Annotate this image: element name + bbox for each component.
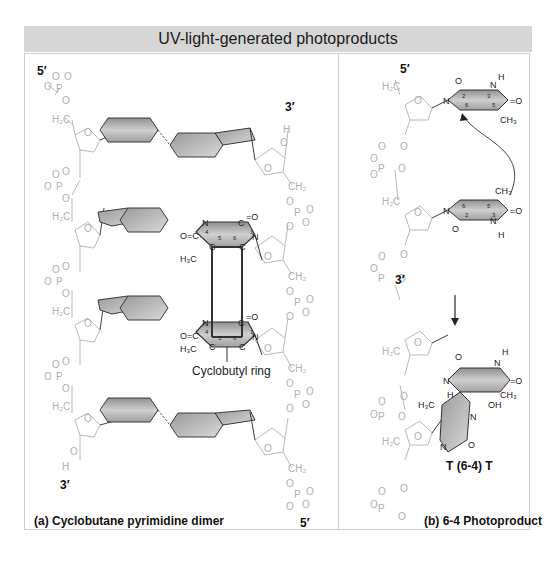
svg-text:O: O [84, 413, 92, 424]
svg-text:H₂C: H₂C [52, 211, 70, 222]
base-pair-bottom [100, 398, 255, 440]
svg-text:H₂C: H₂C [382, 436, 400, 447]
svg-text:N: N [202, 318, 209, 328]
svg-text:CH₂: CH₂ [288, 271, 306, 282]
svg-text:O: O [468, 440, 475, 450]
svg-text:O: O [286, 311, 294, 322]
svg-text:O: O [62, 261, 70, 272]
svg-text:H₂C: H₂C [382, 81, 400, 92]
svg-text:O: O [280, 137, 288, 148]
svg-text:P: P [56, 181, 63, 192]
svg-text:N: N [490, 80, 497, 90]
svg-text:C: C [209, 242, 216, 252]
svg-text:N: N [470, 412, 477, 422]
svg-text:C: C [209, 342, 216, 352]
svg-text:O: O [84, 318, 92, 329]
svg-text:C: C [239, 342, 246, 352]
svg-text:O: O [302, 307, 310, 318]
svg-text:O: O [52, 359, 60, 370]
svg-text:CH₃: CH₃ [500, 390, 517, 400]
svg-text:O: O [400, 141, 408, 152]
svg-text:C: C [239, 242, 246, 252]
svg-text:O: O [62, 356, 70, 367]
svg-text:N: N [494, 358, 501, 368]
svg-text:H₂C: H₂C [52, 401, 70, 412]
svg-text:O: O [378, 486, 386, 497]
svg-text:O: O [286, 196, 294, 207]
svg-text:O: O [370, 153, 378, 164]
svg-text:O: O [44, 181, 52, 192]
svg-text:O: O [286, 221, 294, 232]
phosphate-labels-b: H₂CO OOPOOO H₂CO OOPOO H₂CO OOPOO H₂CO O… [370, 81, 422, 522]
panel-a-caption: (a) Cyclobutane pyrimidine dimer [34, 514, 224, 528]
svg-text:P: P [294, 297, 301, 308]
svg-text:O: O [378, 396, 386, 407]
svg-text:O: O [398, 411, 406, 422]
thymine-bottom [448, 200, 508, 220]
svg-text:O: O [455, 76, 462, 86]
svg-text:O: O [264, 343, 272, 354]
svg-text:O: O [84, 223, 92, 234]
svg-text:O: O [286, 478, 294, 489]
svg-text:O: O [62, 95, 70, 106]
panel-a-left-3prime: 3′ [60, 478, 70, 492]
purine-left-2 [98, 208, 168, 232]
svg-text:H₃C: H₃C [418, 400, 435, 410]
svg-text:O: O [455, 352, 462, 362]
diagram-canvas: OOPOO H₂CO OOPOO H₂CO OOPOO H₂CO OOPOO H… [0, 0, 559, 564]
svg-text:H: H [283, 124, 290, 135]
svg-text:O: O [286, 286, 294, 297]
reaction-arrowhead [451, 318, 459, 326]
svg-text:O: O [52, 71, 60, 82]
panel-a-diagram [48, 85, 292, 468]
svg-text:P: P [378, 273, 385, 284]
svg-text:O: O [398, 163, 406, 174]
svg-text:P: P [378, 411, 385, 422]
svg-text:H₂C: H₂C [382, 346, 400, 357]
svg-text:CH₂: CH₂ [288, 363, 306, 374]
svg-text:H₂C: H₂C [382, 196, 400, 207]
svg-text:H: H [62, 461, 69, 472]
svg-text:C: C [238, 318, 245, 328]
svg-text:O: O [306, 386, 314, 397]
svg-text:O: O [264, 443, 272, 454]
svg-text:O: O [70, 446, 78, 457]
svg-text:H: H [498, 72, 505, 82]
svg-text:H₂C: H₂C [52, 306, 70, 317]
svg-text:O: O [286, 501, 294, 512]
svg-text:O: O [62, 288, 70, 299]
svg-text:O: O [306, 294, 314, 305]
svg-text:O: O [370, 263, 378, 274]
svg-text:H₃C: H₃C [180, 254, 197, 264]
svg-text:P: P [56, 371, 63, 382]
svg-text:O: O [414, 337, 422, 348]
svg-text:OH: OH [488, 400, 502, 410]
svg-text:O: O [306, 486, 314, 497]
panel-b-3prime: 3′ [395, 273, 405, 287]
product-label: T (6-4) T [446, 459, 493, 473]
svg-text:=O: =O [510, 376, 522, 386]
svg-text:=O: =O [510, 96, 522, 106]
svg-text:O: O [400, 391, 408, 402]
svg-text:H₂C: H₂C [52, 114, 70, 125]
panel-a-left-5prime: 5′ [37, 64, 47, 78]
svg-text:O: O [62, 383, 70, 394]
svg-text:N: N [443, 206, 450, 216]
svg-text:O=C: O=C [180, 231, 199, 241]
svg-text:O: O [44, 276, 52, 287]
svg-text:O: O [302, 399, 310, 410]
panel-b-5prime: 5′ [400, 62, 410, 76]
svg-text:O: O [62, 166, 70, 177]
svg-text:O: O [398, 511, 406, 522]
svg-text:O: O [44, 371, 52, 382]
svg-text:H₃C: H₃C [180, 344, 197, 354]
svg-text:P: P [294, 207, 301, 218]
svg-text:CH₃: CH₃ [495, 186, 512, 196]
svg-text:O: O [306, 204, 314, 215]
svg-text:O: O [52, 264, 60, 275]
svg-text:O: O [370, 499, 378, 510]
svg-text:N: N [443, 96, 450, 106]
base-pentagon [215, 128, 255, 145]
svg-text:P: P [56, 276, 63, 287]
svg-text:O: O [378, 251, 386, 262]
